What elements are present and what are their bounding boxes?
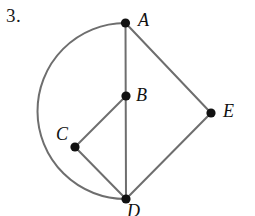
arc-group xyxy=(37,23,126,199)
segment-C-D xyxy=(75,147,126,199)
segment-group xyxy=(75,23,211,199)
arc-A-to-D xyxy=(37,23,126,199)
vertex-point-A xyxy=(121,18,130,27)
vertex-point-B xyxy=(121,91,130,100)
vertex-point-C xyxy=(70,142,79,151)
vertex-group xyxy=(70,18,215,203)
vertex-point-E xyxy=(206,108,215,117)
vertex-label-A: A xyxy=(138,11,149,29)
segment-A-D xyxy=(126,23,127,199)
segment-B-C xyxy=(75,96,126,147)
vertex-label-D: D xyxy=(127,202,140,216)
vertex-label-C: C xyxy=(56,125,68,143)
segment-E-D xyxy=(126,113,211,199)
vertex-label-B: B xyxy=(136,86,147,104)
geometry-figure: 3. A B C D E xyxy=(0,0,255,216)
vertex-label-E: E xyxy=(223,102,234,120)
geometry-drawing xyxy=(0,0,255,216)
